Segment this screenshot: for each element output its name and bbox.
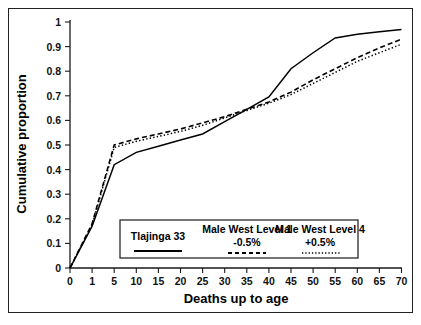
x-tick-label: 70 <box>396 275 408 287</box>
x-tick-label: 35 <box>241 275 253 287</box>
x-tick-label: 15 <box>153 275 165 287</box>
legend-sublabel-1: -0.5% <box>233 236 261 248</box>
y-axis-title: Cumulative proportion <box>14 74 29 213</box>
y-tick-label: 0.1 <box>46 237 61 249</box>
figure-container: 00.10.20.30.40.50.60.70.80.91 0151015202… <box>0 0 421 325</box>
x-axis-ticks: 01510152025303540455055606570 <box>67 268 407 287</box>
y-tick-label: 0.4 <box>46 164 61 176</box>
x-tick-label: 60 <box>351 275 363 287</box>
x-tick-label: 25 <box>197 275 209 287</box>
x-tick-label: 30 <box>219 275 231 287</box>
x-tick-label: 1 <box>89 275 95 287</box>
x-tick-label: 20 <box>175 275 187 287</box>
x-tick-label: 50 <box>307 275 319 287</box>
y-axis-ticks: 00.10.20.30.40.50.60.70.80.91 <box>46 16 70 274</box>
y-tick-label: 0.6 <box>46 114 61 126</box>
x-tick-label: 10 <box>130 275 142 287</box>
x-tick-label: 45 <box>285 275 297 287</box>
chart-legend: Tlajinga 33 Male West Level 1 -0.5% Male… <box>120 220 365 258</box>
x-axis-title: Deaths up to age <box>184 291 289 306</box>
y-tick-label: 0.9 <box>46 41 61 53</box>
x-tick-label: 5 <box>111 275 117 287</box>
y-tick-label: 0.2 <box>46 213 61 225</box>
y-tick-label: 0.7 <box>46 90 61 102</box>
x-tick-label: 55 <box>329 275 341 287</box>
y-tick-label: 0.3 <box>46 188 61 200</box>
x-tick-label: 0 <box>67 275 73 287</box>
x-tick-label: 40 <box>263 275 275 287</box>
legend-label-0: Tlajinga 33 <box>131 230 185 242</box>
legend-sublabel-2: +0.5% <box>305 236 336 248</box>
y-tick-label: 0.8 <box>46 65 61 77</box>
y-tick-label: 0.5 <box>46 139 61 151</box>
y-tick-label: 1 <box>55 16 61 28</box>
line-chart: 00.10.20.30.40.50.60.70.80.91 0151015202… <box>0 0 421 325</box>
x-tick-label: 65 <box>374 275 386 287</box>
legend-label-2: Male West Level 4 <box>275 223 365 235</box>
y-tick-label: 0 <box>55 262 61 274</box>
